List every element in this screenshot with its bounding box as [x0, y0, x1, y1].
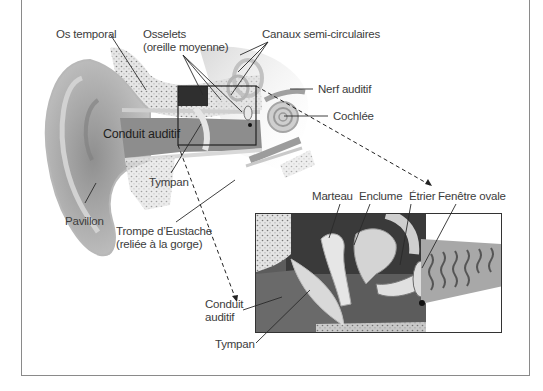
label-trompe: Trompe d’Eustache [116, 225, 212, 238]
label-conduit-auditif: Conduit auditif [103, 128, 180, 141]
label-marteau: Marteau [312, 190, 353, 203]
label-nerf-auditif: Nerf auditif [318, 83, 371, 96]
label-trompe-sub: (reliée à la gorge) [116, 238, 202, 251]
label-osselets-sub: (oreille moyenne) [143, 41, 228, 54]
inset-illustration [256, 214, 502, 333]
label-enclume: Enclume [359, 190, 402, 203]
label-inset-conduit-sub: auditif [205, 311, 234, 324]
label-fenetre-ovale: Fenêtre ovale [438, 190, 506, 203]
label-os-temporal: Os temporal [56, 28, 116, 41]
label-pavillon: Pavillon [65, 215, 104, 228]
label-osselets: Osselets [143, 28, 186, 41]
label-inset-conduit: Conduit [205, 298, 243, 311]
inset-middle-ear [255, 213, 502, 333]
label-etrier: Étrier [409, 190, 435, 203]
label-cochlee: Cochlée [333, 110, 374, 123]
label-tympan: Tympan [149, 176, 189, 189]
label-canaux: Canaux semi-circulaires [262, 28, 380, 41]
label-inset-tympan: Tympan [215, 338, 255, 351]
